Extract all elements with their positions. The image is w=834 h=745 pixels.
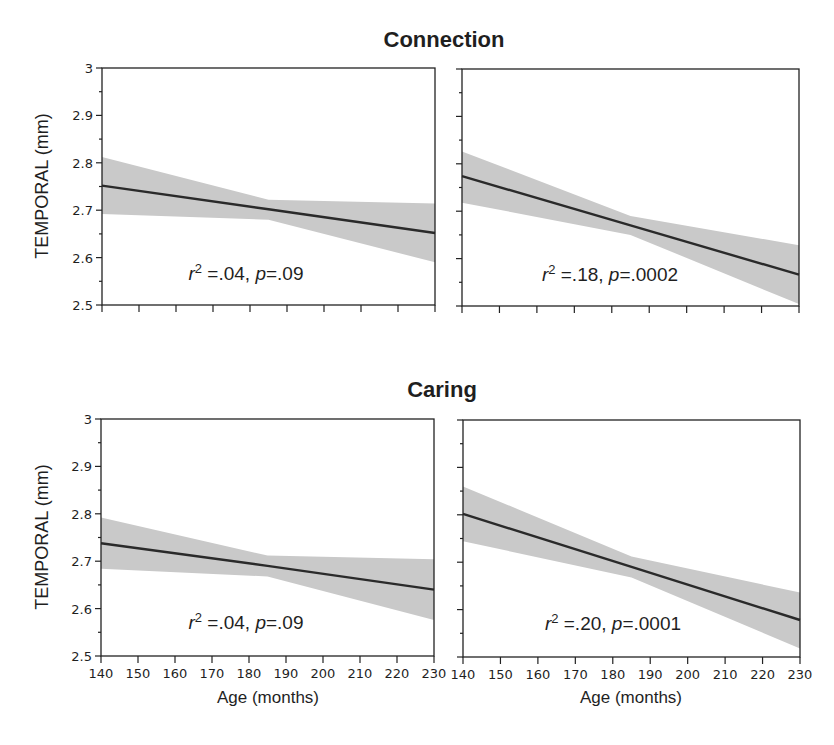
regression-line	[462, 176, 799, 275]
y-tick-label: 3	[85, 61, 93, 76]
x-tick-label: 170	[563, 667, 588, 682]
y-tick-label: 3	[84, 412, 92, 427]
y-tick-label: 2.9	[71, 459, 92, 474]
y-tick-label: 2.5	[71, 649, 92, 664]
x-tick-label: 140	[89, 666, 114, 681]
y-tick-label: 2.7	[72, 203, 93, 218]
x-tick-label: 230	[422, 666, 447, 681]
regression-line	[463, 514, 800, 620]
x-axis-label-right: Age (months)	[580, 688, 682, 707]
panel-connection-left: 2.52.62.72.82.93r2 =.04, p=.09	[72, 61, 435, 313]
x-tick-label: 140	[451, 667, 476, 682]
x-tick-label: 170	[200, 666, 225, 681]
x-tick-label: 190	[638, 667, 663, 682]
stats-annotation: r2 =.04, p=.09	[188, 261, 303, 285]
confidence-band	[101, 518, 434, 620]
y-tick-label: 2.7	[71, 554, 92, 569]
stats-annotation: r2 =.20, p=.0001	[545, 611, 681, 635]
x-tick-label: 230	[788, 667, 813, 682]
y-axis-label-top: TEMPORAL (mm)	[32, 113, 52, 258]
y-tick-label: 2.5	[72, 298, 93, 313]
x-tick-label: 190	[274, 666, 299, 681]
x-tick-label: 180	[600, 667, 625, 682]
row-title-connection: Connection	[384, 27, 505, 52]
x-tick-label: 200	[675, 667, 700, 682]
panel-caring-right: 140150160170180190200210220230r2 =.20, p…	[451, 420, 813, 682]
x-tick-label: 210	[713, 667, 738, 682]
x-tick-label: 200	[311, 666, 336, 681]
x-tick-label: 160	[163, 666, 188, 681]
x-tick-label: 180	[237, 666, 262, 681]
x-tick-label: 150	[488, 667, 513, 682]
x-tick-label: 220	[385, 666, 410, 681]
y-tick-label: 2.9	[72, 108, 93, 123]
y-tick-label: 2.6	[72, 251, 93, 266]
stats-annotation: r2 =.04, p=.09	[188, 610, 303, 634]
panel-connection-right: r2 =.18, p=.0002	[456, 69, 799, 313]
row-title-caring: Caring	[407, 377, 477, 402]
x-tick-label: 160	[525, 667, 550, 682]
x-tick-label: 220	[750, 667, 775, 682]
panel-caring-left: 2.52.62.72.82.93140150160170180190200210…	[71, 412, 446, 681]
stats-annotation: r2 =.18, p=.0002	[542, 262, 678, 286]
x-tick-label: 150	[126, 666, 151, 681]
y-axis-label-bottom: TEMPORAL (mm)	[32, 464, 52, 609]
y-tick-label: 2.8	[72, 156, 93, 171]
figure: Connection Caring TEMPORAL (mm) TEMPORAL…	[0, 0, 834, 745]
x-tick-label: 210	[348, 666, 373, 681]
x-axis-label-left: Age (months)	[217, 688, 319, 707]
y-tick-label: 2.8	[71, 507, 92, 522]
y-tick-label: 2.6	[71, 602, 92, 617]
